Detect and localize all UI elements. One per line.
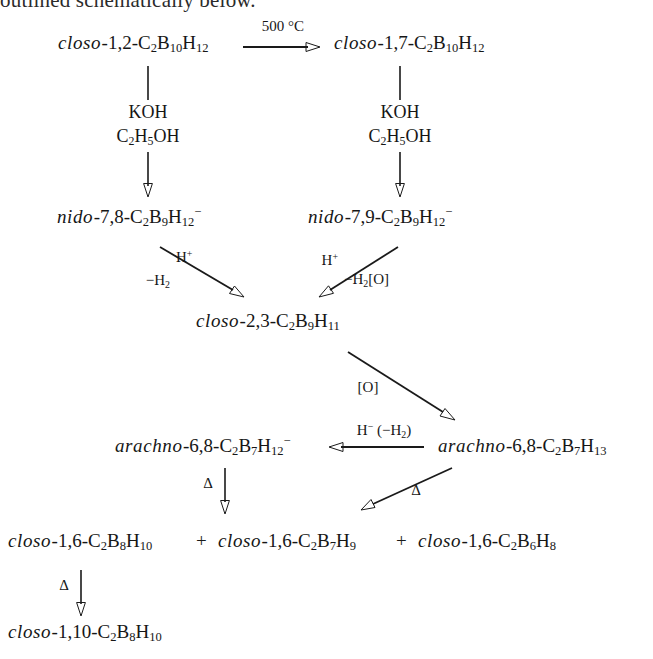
species-formula: -1,7-C2B10H12: [378, 32, 485, 53]
species-prefix-nido: nido: [308, 206, 345, 227]
species-formula: -7,9-C2B9H12−: [345, 206, 453, 227]
species-formula: -1,6-C2B8H10: [52, 530, 153, 551]
species-prefix-arachno: arachno: [438, 435, 506, 456]
reaction-scheme-figure: outlined schematically below.: [0, 0, 653, 659]
species-nido-7-9-C2B9H12-anion: nido-7,9-C2B9H12−: [308, 207, 452, 227]
species-closo-1-6-C2B7H9: closo-1,6-C2B7H9: [218, 531, 356, 551]
arrow-thermolysis-vertical: [221, 468, 230, 514]
species-formula: -6,8-C2B7H13: [506, 435, 607, 456]
species-formula: -1,6-C2B6H8: [462, 530, 556, 551]
label-koh-left: KOH: [98, 103, 198, 122]
species-prefix-closo: closo: [334, 32, 378, 53]
species-prefix-closo: closo: [218, 530, 262, 551]
species-prefix-closo: closo: [8, 621, 52, 642]
species-closo-2-3-C2B9H11: closo-2,3-C2B9H11: [196, 311, 340, 331]
species-prefix-closo: closo: [418, 530, 462, 551]
species-formula: -1,10-C2B8H10: [52, 621, 162, 642]
species-arachno-6-8-C2B7H12-anion: arachno-6,8-C2B7H12−: [115, 436, 291, 456]
species-prefix-closo: closo: [8, 530, 52, 551]
species-prefix-closo: closo: [58, 32, 102, 53]
label-h-plus-right: H+: [298, 252, 338, 268]
species-closo-1-7-C2B10H12: closo-1,7-C2B10H12: [334, 33, 484, 53]
species-formula: -6,8-C2B7H12−: [183, 435, 291, 456]
label-ethanol-right: C2H5OH: [344, 127, 456, 146]
species-arachno-6-8-C2B7H13: arachno-6,8-C2B7H13: [438, 436, 607, 456]
label-minus-h2-left: −H2: [118, 272, 170, 288]
label-delta-vertical: Δ: [196, 474, 220, 493]
species-formula: -2,3-C2B9H11: [240, 310, 340, 331]
plus-sign-1: +: [196, 531, 207, 551]
label-delta-diagonal: Δ: [404, 481, 428, 500]
arrow-isomerization: [243, 43, 320, 52]
species-nido-7-8-C2B9H12-anion: nido-7,8-C2B9H12−: [57, 207, 201, 227]
label-oxidant: [O]: [348, 379, 388, 395]
plus-sign-2: +: [396, 531, 407, 551]
label-temperature: 500 °C: [240, 18, 326, 34]
species-prefix-arachno: arachno: [115, 435, 183, 456]
species-formula: -7,8-C2B9H12−: [94, 206, 202, 227]
species-closo-1-6-C2B8H10: closo-1,6-C2B8H10: [8, 531, 152, 551]
arrow-hydride-addition: [329, 443, 424, 452]
species-prefix-nido: nido: [57, 206, 94, 227]
species-formula: -1,2-C2B10H12: [102, 32, 209, 53]
species-closo-1-10-C2B8H10: closo-1,10-C2B8H10: [8, 622, 162, 642]
arrow-thermolysis-final: [77, 570, 86, 616]
species-prefix-closo: closo: [196, 310, 240, 331]
label-h-plus-left: H+: [176, 249, 216, 265]
species-formula: -1,6-C2B7H9: [262, 530, 356, 551]
species-closo-1-6-C2B6H8: closo-1,6-C2B6H8: [418, 531, 556, 551]
label-hydride-reduction: H− (−H2): [338, 422, 430, 438]
label-minus-h2-oxidant: −H2[O]: [344, 271, 430, 287]
label-koh-right: KOH: [350, 103, 450, 122]
label-delta-final: Δ: [52, 576, 76, 595]
label-ethanol-left: C2H5OH: [92, 127, 204, 146]
species-closo-1-2-C2B10H12: closo-1,2-C2B10H12: [58, 33, 208, 53]
